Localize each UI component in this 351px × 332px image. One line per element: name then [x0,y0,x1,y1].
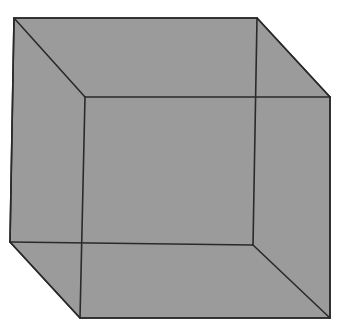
cube-figure [0,0,351,332]
